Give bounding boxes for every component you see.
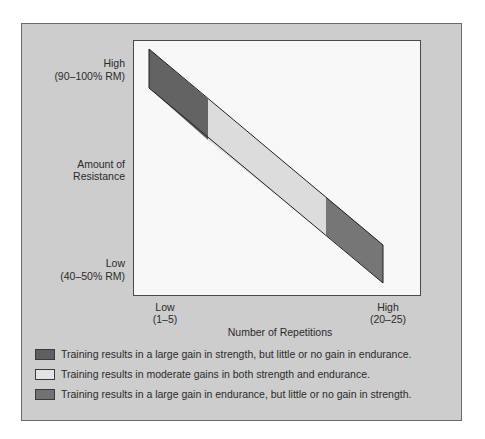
x-high-label: High (363, 301, 413, 313)
legend-swatch-mid (35, 389, 55, 400)
legend-text: Training results in a large gain in endu… (61, 388, 411, 400)
band-segment-moderate (208, 99, 326, 235)
y-low-label: Low (106, 257, 125, 269)
y-high-label: High (103, 57, 125, 69)
legend-text: Training results in moderate gains in bo… (61, 368, 370, 380)
x-low-sub: (1–5) (145, 313, 185, 325)
y-axis-title-1: Amount of (77, 158, 125, 170)
x-low-label: Low (145, 301, 185, 313)
legend-text: Training results in a large gain in stre… (61, 348, 411, 360)
band-segment-strength (149, 49, 208, 140)
x-high-sub: (20–25) (363, 313, 413, 325)
legend-swatch-dark (35, 349, 55, 360)
band-segment-endurance (326, 197, 383, 283)
legend-swatch-light (35, 369, 55, 380)
y-high-sub: (90–100% RM) (54, 70, 125, 82)
y-axis-title-2: Resistance (73, 170, 125, 182)
y-low-sub: (40–50% RM) (60, 270, 125, 282)
x-axis-title: Number of Repetitions (200, 326, 360, 338)
legend-item-strength: Training results in a large gain in stre… (35, 347, 411, 361)
legend-item-moderate: Training results in moderate gains in bo… (35, 367, 370, 381)
legend-item-endurance: Training results in a large gain in endu… (35, 387, 411, 401)
